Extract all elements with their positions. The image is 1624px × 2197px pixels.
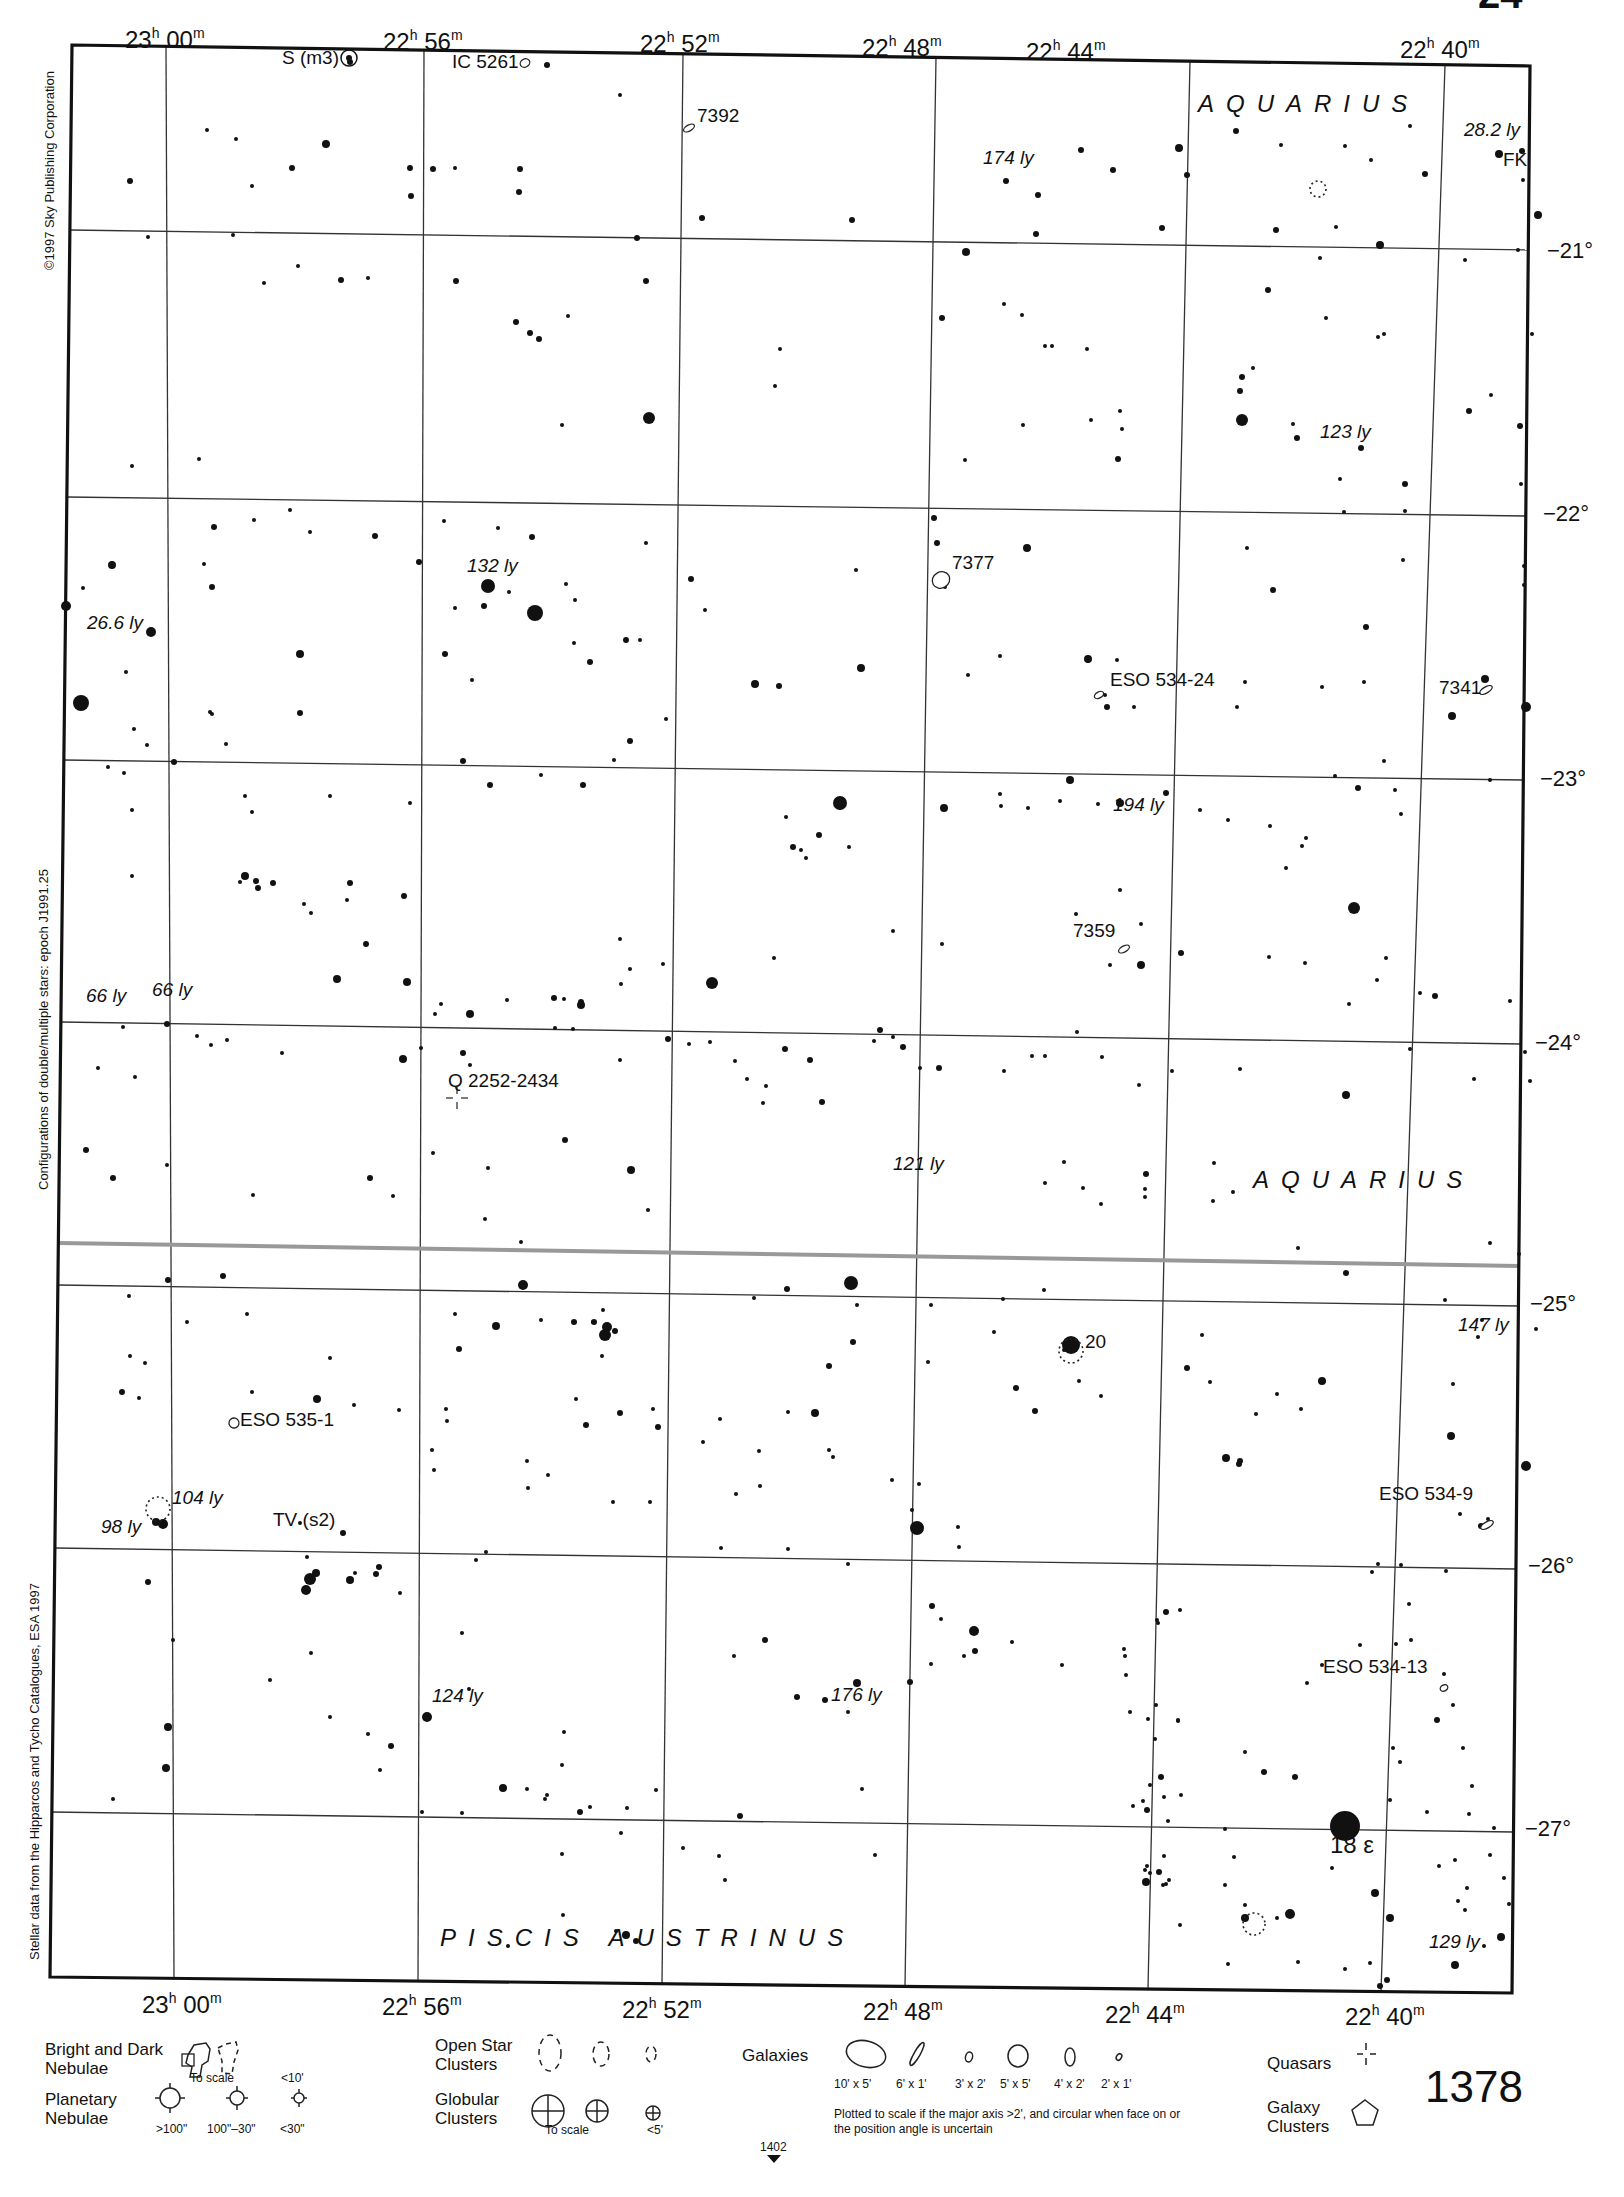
star-icon (363, 941, 369, 947)
star-icon (546, 1473, 550, 1477)
legend-galaxies-title: Galaxies (742, 2046, 808, 2065)
star-icon (665, 1036, 671, 1042)
star-icon (807, 1057, 813, 1063)
star-icon (121, 1025, 125, 1029)
star-icon (1118, 888, 1122, 892)
star-icon (209, 584, 215, 590)
star-icon (1292, 1774, 1298, 1780)
star-icon (929, 1303, 933, 1307)
star-icon (1453, 1858, 1457, 1862)
object-label: TV (s2) (273, 1510, 335, 1529)
star-icon (486, 1166, 490, 1170)
star-icon (513, 319, 519, 325)
star-icon (1403, 509, 1407, 513)
ra-label-bottom: 22h 56m (382, 1995, 462, 2019)
star-icon (1200, 1333, 1204, 1337)
star-icon (209, 1043, 213, 1047)
ra-hours: 22 (622, 1996, 649, 2023)
ra-grid-line (1381, 65, 1445, 1992)
star-icon (313, 1395, 321, 1403)
star-icon (1178, 1923, 1182, 1927)
star-icon (1148, 1783, 1152, 1787)
star-icon (132, 727, 136, 731)
star-icon (1237, 388, 1243, 394)
star-icon (564, 582, 568, 586)
star-icon (1348, 902, 1360, 914)
star-icon (560, 1763, 564, 1767)
ra-grid-line (1148, 61, 1190, 1989)
star-icon (1528, 1079, 1532, 1083)
object-label: ESO 534-24 (1110, 670, 1215, 689)
star-icon (1402, 481, 1408, 487)
star-icon (634, 235, 640, 241)
legend-galaxy-note: Plotted to scale if the major axis >2', … (834, 2107, 1184, 2137)
star-icon (1096, 802, 1100, 806)
star-icon (618, 937, 622, 941)
star-icon (681, 1846, 685, 1850)
star-icon (1155, 1618, 1159, 1622)
star-icon (1358, 1643, 1362, 1647)
star-icon (999, 804, 1003, 808)
ra-label-bottom: 22h 44m (1105, 2003, 1185, 2027)
star-icon (197, 457, 201, 461)
galaxy-icon (519, 57, 532, 69)
star-icon (962, 248, 970, 256)
star-icon (1408, 1047, 1412, 1051)
star-icon (699, 215, 705, 221)
star-icon (612, 758, 616, 762)
star-icon (860, 1787, 864, 1791)
star-icon (772, 956, 776, 960)
star-icon (1470, 1784, 1474, 1788)
star-icon (388, 1743, 394, 1749)
ra-label-top: 22h 40m (1400, 38, 1480, 62)
star-icon (1232, 1855, 1236, 1859)
star-icon (737, 1813, 743, 1819)
star-icon (127, 1294, 131, 1298)
star-icon (205, 128, 209, 132)
star-icon (1042, 1288, 1046, 1292)
star-icon (372, 533, 378, 539)
object-label: ESO 534-13 (1323, 1657, 1428, 1676)
star-icon (445, 1419, 449, 1423)
star-icon (1368, 1961, 1372, 1965)
star-icon (1211, 1199, 1215, 1203)
object-label: 66 ly (86, 986, 126, 1005)
star-icon (460, 1050, 466, 1056)
star-icon (1075, 1030, 1079, 1034)
star-icon (289, 165, 295, 171)
star-icon (1530, 332, 1534, 336)
star-icon (1153, 1737, 1157, 1741)
star-icon (1476, 1335, 1480, 1339)
legend-globular-title: Globular Clusters (435, 2090, 525, 2128)
star-icon (366, 276, 370, 280)
star-icon (1132, 705, 1136, 709)
star-icon (877, 1027, 883, 1033)
star-icon (145, 1579, 151, 1585)
star-icon (701, 1440, 705, 1444)
star-icon (846, 1562, 850, 1566)
star-icon (1300, 844, 1304, 848)
legend-galaxy-size: 4' x 2' (1054, 2077, 1085, 2091)
object-label: 98 ly (101, 1517, 141, 1536)
star-icon (408, 193, 414, 199)
star-icon (106, 765, 110, 769)
star-icon (518, 1280, 528, 1290)
star-icon (1303, 961, 1307, 965)
star-icon (1066, 776, 1074, 784)
star-icon (505, 998, 509, 1002)
star-icon (164, 1723, 172, 1731)
star-icon (367, 1175, 373, 1181)
star-icon (1110, 167, 1116, 173)
star-icon (644, 541, 648, 545)
dec-grid-line (55, 1548, 1516, 1569)
epoch-note: Configurations of double/multiple stars:… (36, 869, 51, 1190)
star-icon (1382, 332, 1386, 336)
star-icon (1363, 624, 1369, 630)
star-icon (1010, 1640, 1014, 1644)
star-icon (1463, 258, 1467, 262)
variable-star-dot (346, 55, 352, 61)
star-icon (1334, 225, 1338, 229)
star-icon (110, 1175, 116, 1181)
star-icon (122, 771, 126, 775)
star-icon (1377, 1983, 1383, 1989)
